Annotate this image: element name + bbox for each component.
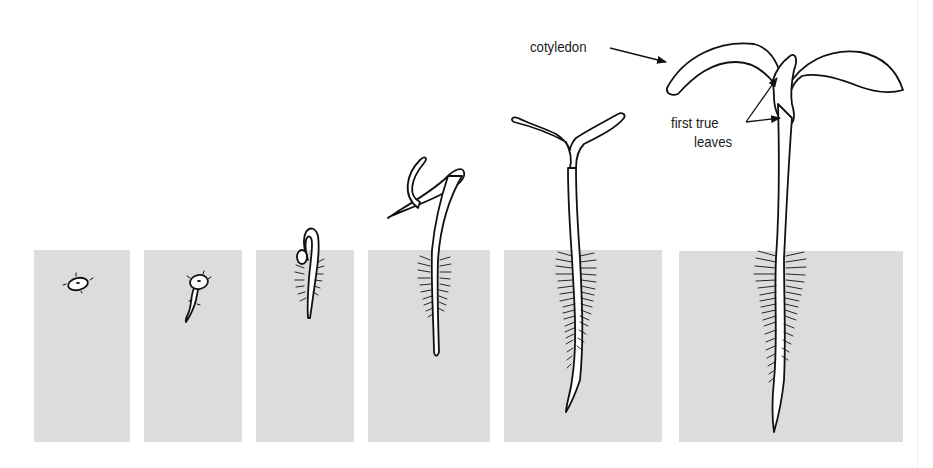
- seedling-stage-3: [295, 229, 324, 318]
- seedling-illustrations: [0, 0, 933, 468]
- germination-diagram: cotyledon first true leaves: [0, 0, 933, 468]
- cotyledon-arrow-line: [610, 48, 666, 62]
- seedling-stage-2: [186, 271, 211, 322]
- first-true-leaves-label-line2: leaves: [694, 133, 732, 151]
- seed-stage-1: [63, 273, 93, 293]
- first-true-leaves-arrow-lower: [746, 118, 780, 122]
- seedling-stage-5: [512, 113, 625, 412]
- seedling-stage-6: [667, 43, 903, 432]
- seedling-stage-4: [388, 157, 464, 355]
- cotyledon-left: [667, 43, 782, 94]
- cotyledon-label: cotyledon: [530, 38, 587, 56]
- first-true-leaves-arrow-upper: [746, 78, 777, 122]
- cotyledon-right: [786, 51, 903, 94]
- first-true-leaves-label-line1: first true: [671, 114, 719, 132]
